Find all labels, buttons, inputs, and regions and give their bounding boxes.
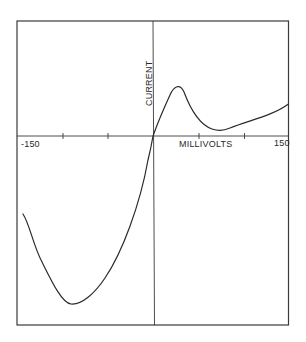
x-max-label: 150 (274, 138, 290, 148)
x-axis-label: MILLIVOLTS (179, 139, 232, 149)
iv-curve-line (23, 87, 289, 304)
y-axis-label: CURRENT (144, 61, 154, 106)
iv-curve-chart (0, 0, 306, 342)
x-min-label: -150 (21, 139, 40, 149)
